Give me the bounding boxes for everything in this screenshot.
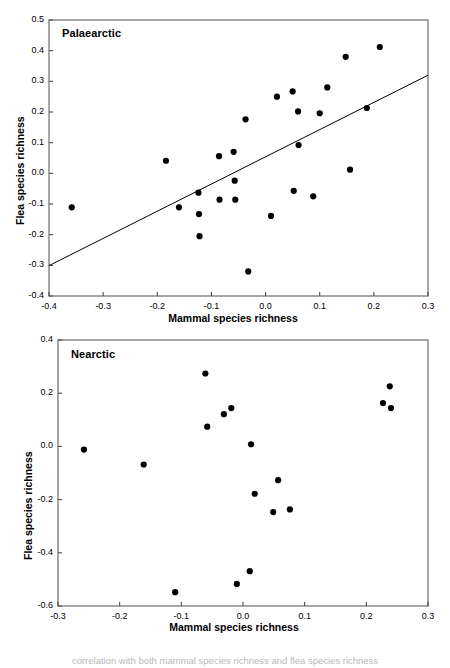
scatter-plot-palaearctic [0,0,450,330]
data-point [221,411,227,417]
data-point [247,568,253,574]
data-point [377,44,383,50]
data-point [324,84,330,90]
y-tick-label: -0.4 [24,547,53,557]
x-tick-label: -0.1 [191,301,231,311]
y-axis-title-nearctic: Flea species richness [22,451,34,560]
data-point [252,491,258,497]
data-point [228,405,234,411]
plot-frame [58,340,428,606]
data-point [81,446,87,452]
x-axis-title-nearctic: Mammal species richness [9,621,450,633]
data-point [343,54,349,60]
data-point [364,105,370,111]
x-tick-label: -0.1 [161,611,201,621]
x-tick-label: 0.0 [246,301,286,311]
y-tick-label: 0.1 [15,137,44,147]
y-tick-label: -0.2 [24,494,53,504]
data-point [268,213,274,219]
data-point [195,190,201,196]
data-point [232,178,238,184]
data-point [290,88,296,94]
data-point [216,153,222,159]
data-point [295,108,301,114]
data-point [388,405,394,411]
data-point [216,197,222,203]
y-tick-label: 0.5 [15,14,44,24]
x-tick-label: 0.1 [285,611,325,621]
data-point [234,581,240,587]
scatter-plot-nearctic [0,330,450,648]
data-point [317,110,323,116]
data-point [242,116,248,122]
x-tick-label: -0.4 [29,301,69,311]
data-point [163,158,169,164]
x-tick-label: -0.2 [137,301,177,311]
y-tick-label: -0.2 [15,229,44,239]
data-point [196,211,202,217]
y-tick-label: 0.4 [24,334,53,344]
data-point [295,142,301,148]
data-point [248,441,254,447]
data-point [202,370,208,376]
data-point [347,167,353,173]
chart-panel-palaearctic: Palaearctic Mammal species richness Flea… [0,0,450,330]
data-point [380,400,386,406]
regression-line [49,75,428,265]
data-point [275,477,281,483]
data-point [310,193,316,199]
data-point [245,268,251,274]
x-tick-label: -0.3 [38,611,78,621]
y-tick-label: 0.4 [15,45,44,55]
y-tick-label: -0.4 [15,290,44,300]
data-point [291,188,297,194]
data-point [172,589,178,595]
chart-panel-nearctic: Nearctic Mammal species richness Flea sp… [0,330,450,648]
data-point [196,233,202,239]
x-tick-label: 0.3 [408,611,448,621]
y-tick-label: 0.0 [24,440,53,450]
y-tick-label: 0.2 [24,387,53,397]
panel-title-palaearctic: Palaearctic [62,27,121,39]
figure-caption-cutoff: correlation with both mammal species ric… [0,655,450,668]
data-point [287,506,293,512]
panel-title-nearctic: Nearctic [71,348,115,360]
data-point [387,383,393,389]
data-point [204,424,210,430]
x-tick-label: -0.2 [100,611,140,621]
data-point [270,509,276,515]
data-point [69,204,75,210]
x-tick-label: 0.1 [300,301,340,311]
data-point [232,197,238,203]
y-tick-label: 0.3 [15,75,44,85]
data-point [176,204,182,210]
x-tick-label: 0.2 [346,611,386,621]
plot-frame [49,20,428,296]
x-tick-label: 0.0 [223,611,263,621]
y-tick-label: -0.3 [15,259,44,269]
data-point [274,94,280,100]
y-tick-label: -0.6 [24,600,53,610]
y-tick-label: 0.2 [15,106,44,116]
figure-two-panel-scatter: Palaearctic Mammal species richness Flea… [0,0,450,668]
data-point [231,149,237,155]
y-tick-label: 0.0 [15,167,44,177]
x-tick-label: 0.3 [408,301,448,311]
x-tick-label: -0.3 [83,301,123,311]
x-tick-label: 0.2 [354,301,394,311]
x-axis-title-palaearctic: Mammal species richness [8,312,450,324]
data-point [141,461,147,467]
y-tick-label: -0.1 [15,198,44,208]
